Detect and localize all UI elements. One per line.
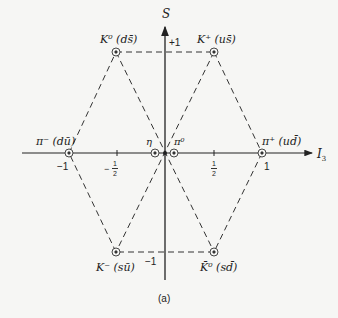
s-axis-label: S (162, 8, 170, 20)
label-piplus: π⁺ (ud̄) (262, 136, 301, 147)
marker-pi0 (170, 149, 178, 157)
tick-i3-minus-half: − 1 2 (104, 160, 109, 170)
marker-K0bar (210, 248, 218, 256)
marker-eta (151, 149, 159, 157)
marker-piminus (65, 149, 73, 157)
label-pi0: π⁰ (174, 137, 185, 147)
label-Kminus: K⁻ (sū) (96, 262, 135, 273)
marker-Kplus (210, 48, 218, 56)
marker-Kminus (112, 248, 120, 256)
i3-axis-label: I3 (317, 148, 326, 163)
tick-s-plus1: +1 (169, 38, 180, 48)
tick-s-minus1: −1 (145, 257, 156, 267)
marker-K0 (112, 48, 120, 56)
denominator: 2 (211, 170, 217, 177)
label-Kplus: K⁺ (us̄) (197, 34, 236, 45)
denominator: 2 (112, 170, 118, 177)
tick-i3-half: 1 2 (211, 160, 217, 177)
numerator: 1 (211, 160, 217, 167)
label-piminus: π⁻ (dū) (36, 136, 75, 147)
tick-i3-minus1: −1 (57, 162, 68, 172)
marker-piplus (258, 149, 266, 157)
i3-label-sub: 3 (322, 155, 326, 163)
label-K0: K⁰ (ds̄) (100, 34, 137, 45)
label-K0bar: K̄⁰ (sd̄) (200, 262, 237, 273)
minus-sign: − (104, 164, 109, 174)
numerator: 1 (112, 160, 118, 167)
figure-caption: (a) (158, 294, 170, 304)
tick-i3-plus1: 1 (264, 162, 270, 172)
label-eta: η (146, 137, 152, 147)
